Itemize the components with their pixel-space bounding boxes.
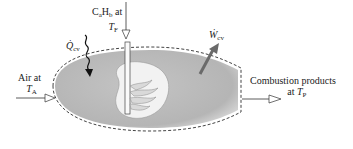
heat-label: Q̇cv <box>66 40 80 55</box>
products-temp-sub: P <box>303 91 307 99</box>
air-label: Air at TA <box>18 72 41 98</box>
work-label: Ẇcv <box>209 29 224 44</box>
fuel-formula-h: H <box>102 6 109 17</box>
fuel-label: CaHb at TF <box>92 6 122 36</box>
products-at: at <box>287 86 297 97</box>
air-temp-sub: A <box>32 88 37 96</box>
products-line1: Combustion products <box>250 75 336 86</box>
fuel-at: at <box>113 6 123 17</box>
work-sub: cv <box>217 34 224 42</box>
fuel-temp-sub: F <box>114 26 118 34</box>
air-line1: Air at <box>18 72 41 83</box>
combustion-control-volume-diagram: CaHb at TF Q̇cv Ẇcv Air at TA Combustion… <box>0 0 353 149</box>
heat-sub: cv <box>73 45 80 53</box>
fuel-formula-c: C <box>92 6 99 17</box>
products-label: Combustion products at TP <box>250 75 336 101</box>
